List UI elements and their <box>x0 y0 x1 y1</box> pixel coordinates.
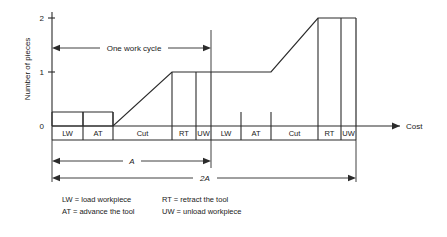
abbreviation-legend: LW = load workpieceRT = retract the tool… <box>62 194 241 217</box>
legend-uw-definition: UW = unload workpiece <box>162 206 241 218</box>
block-label-rt-1: RT <box>179 129 189 138</box>
work-cycle-label: One work cycle <box>107 44 162 53</box>
block-label-cut-1: Cut <box>137 129 150 138</box>
work-cycle-arrowhead-right-icon <box>203 45 211 51</box>
legend-row: AT = advance the toolUW = unload workpie… <box>62 206 241 218</box>
x-axis-arrowhead-icon <box>392 123 400 130</box>
dim-2a-label: 2A <box>199 174 210 183</box>
y-tick-label-1: 1 <box>40 68 45 77</box>
legend-lw-definition: LW = load workpiece <box>62 194 162 206</box>
work-cycle-arrowhead-left-icon <box>52 45 60 51</box>
dim-a-arrowhead-right-icon <box>203 158 211 164</box>
dim-2a-arrowhead-right-icon <box>348 175 356 181</box>
legend-at-definition: AT = advance the tool <box>62 206 162 218</box>
block-label-uw-1: UW <box>197 129 210 138</box>
block-label-uw-2: UW <box>342 129 355 138</box>
y-tick-label-2: 2 <box>40 14 45 23</box>
dim-a-label: A <box>128 157 134 166</box>
block-label-at-2: AT <box>251 129 260 138</box>
block-label-cut-2: Cut <box>289 129 302 138</box>
dim-a-arrowhead-left-icon <box>52 158 60 164</box>
y-tick-label-0: 0 <box>40 122 45 131</box>
block-label-lw-2: LW <box>221 129 233 138</box>
legend-row: LW = load workpieceRT = retract the tool <box>62 194 241 206</box>
y-axis-title: Number of pieces <box>23 38 32 101</box>
dim-2a-arrowhead-left-icon <box>52 175 60 181</box>
legend-rt-definition: RT = retract the tool <box>162 194 228 206</box>
block-label-rt-2: RT <box>325 129 335 138</box>
x-axis-title: Cost <box>406 122 423 131</box>
pieces-step-profile <box>52 18 356 126</box>
block-label-lw-1: LW <box>62 129 74 138</box>
block-label-at-1: AT <box>93 129 102 138</box>
